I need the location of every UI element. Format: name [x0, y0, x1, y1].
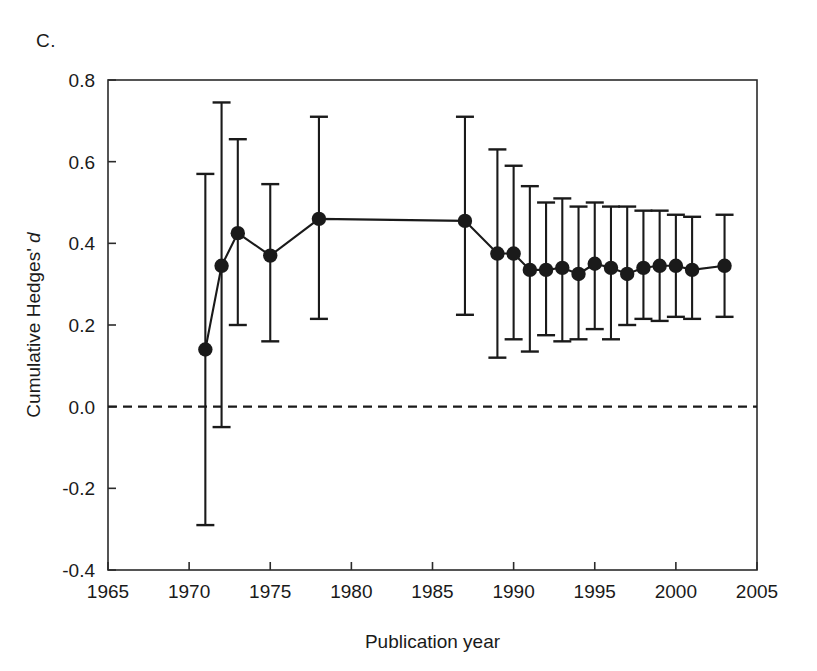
x-tick-label: 2005 — [736, 581, 778, 602]
cumulative-meta-analysis-chart: 196519701975198019851990199520002005 -0.… — [0, 0, 817, 671]
data-point-marker — [523, 263, 537, 277]
figure-root: C. 196519701975198019851990199520002005 … — [0, 0, 817, 671]
data-point-marker — [539, 263, 553, 277]
x-tick-label: 1995 — [574, 581, 616, 602]
data-point-marker — [458, 214, 472, 228]
error-bars — [196, 102, 733, 525]
data-point-marker — [669, 259, 683, 273]
data-point-marker — [588, 257, 602, 271]
data-point-marker — [604, 261, 618, 275]
data-point-marker — [263, 248, 277, 262]
y-axis-title: Cumulative Hedges' d — [23, 231, 44, 418]
data-point-marker — [555, 261, 569, 275]
x-tick-label: 1965 — [87, 581, 129, 602]
x-tick-label: 1980 — [330, 581, 372, 602]
x-tick-label: 2000 — [655, 581, 697, 602]
data-point-marker — [652, 259, 666, 273]
x-axis: 196519701975198019851990199520002005 — [87, 562, 778, 602]
x-tick-label: 1990 — [492, 581, 534, 602]
y-tick-label: 0.8 — [69, 70, 95, 91]
y-tick-label: 0.0 — [69, 397, 95, 418]
data-point-marker — [685, 263, 699, 277]
data-point-marker — [636, 261, 650, 275]
y-tick-label: 0.6 — [69, 152, 95, 173]
x-axis-title: Publication year — [365, 631, 501, 652]
data-point-marker — [571, 267, 585, 281]
data-point-marker — [231, 226, 245, 240]
data-point-marker — [620, 267, 634, 281]
x-tick-label: 1985 — [411, 581, 453, 602]
y-tick-label: -0.4 — [62, 560, 95, 581]
x-tick-label: 1970 — [168, 581, 210, 602]
data-point-marker — [717, 259, 731, 273]
x-tick-label: 1975 — [249, 581, 291, 602]
data-point-marker — [490, 246, 504, 260]
y-axis-title-plain: Cumulative Hedges' — [23, 243, 44, 418]
data-point-marker — [506, 246, 520, 260]
data-point-marker — [312, 212, 326, 226]
y-tick-label: 0.2 — [69, 315, 95, 336]
data-point-marker — [214, 259, 228, 273]
y-tick-label: 0.4 — [69, 233, 96, 254]
y-tick-label: -0.2 — [62, 478, 95, 499]
y-axis-title-italic: d — [23, 231, 44, 243]
data-point-marker — [198, 342, 212, 356]
